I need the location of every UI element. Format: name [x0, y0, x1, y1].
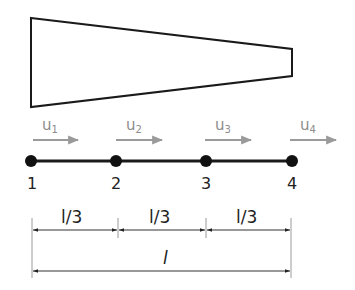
node-label-4: 4: [287, 176, 297, 192]
node-1: [25, 155, 37, 167]
label-subscript: 4: [310, 124, 316, 135]
dimension-label-segment-2: l/3: [149, 209, 170, 226]
node-label-3: 3: [201, 176, 211, 192]
dimension-label-segment-1: l/3: [61, 209, 82, 226]
label-subscript: 2: [136, 124, 142, 135]
node-4: [286, 155, 298, 167]
node-label-1: 1: [27, 176, 37, 192]
tapered-bar-shape: [31, 18, 292, 107]
node-3: [200, 155, 212, 167]
label-subscript: 3: [225, 124, 231, 135]
label-subscript: 1: [52, 124, 58, 135]
node-2: [110, 155, 122, 167]
label-base: u: [300, 116, 310, 134]
label-base: u: [126, 116, 136, 134]
displacement-label-u1: u1: [42, 118, 58, 135]
node-label-2: 2: [111, 176, 121, 192]
displacement-label-u4: u4: [300, 118, 316, 135]
diagram-canvas: [0, 0, 355, 290]
dimension-label-total: l: [163, 250, 168, 267]
displacement-label-u2: u2: [126, 118, 142, 135]
dimension-label-segment-3: l/3: [236, 209, 257, 226]
label-base: u: [215, 116, 225, 134]
displacement-label-u3: u3: [215, 118, 231, 135]
label-base: u: [42, 116, 52, 134]
